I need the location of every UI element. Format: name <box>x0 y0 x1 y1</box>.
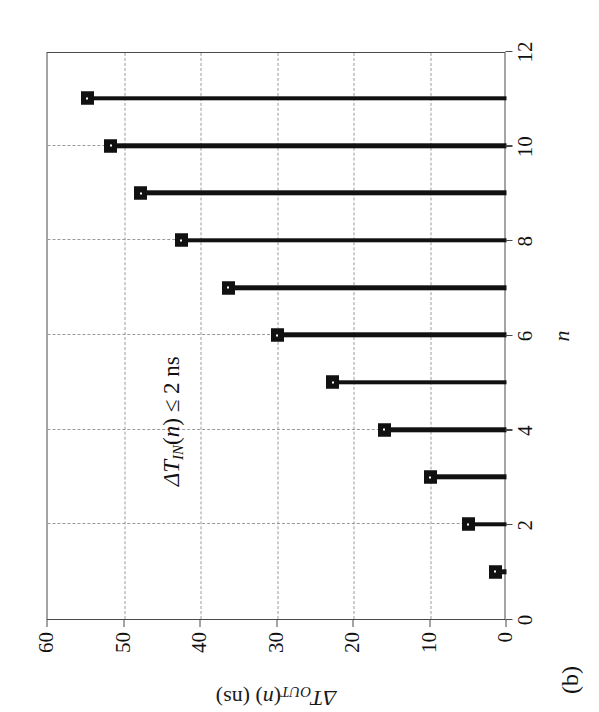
x-axis-tick <box>505 51 512 52</box>
data-point-marker <box>134 187 147 200</box>
data-point-marker <box>174 234 187 247</box>
rotated-figure-wrapper: 0246810120102030405060 ΔTIN(n) ≤ 2 ns n … <box>0 0 599 712</box>
x-axis-tick <box>505 145 512 146</box>
data-point-marker <box>80 92 93 105</box>
x-axis-tick <box>505 240 512 241</box>
x-axis-tick-label: 12 <box>512 42 537 63</box>
x-axis-tick <box>505 429 512 430</box>
y-axis-title-suffix: ) (ns) <box>215 686 262 711</box>
y-axis-title-prefix: ΔT <box>311 686 336 711</box>
x-axis-tick-label: 6 <box>512 331 537 342</box>
y-axis-title-open: ( <box>273 686 280 711</box>
x-axis-tick <box>505 524 512 525</box>
stem-bar <box>140 191 506 196</box>
figure-panel-b: 0246810120102030405060 ΔTIN(n) ≤ 2 ns n … <box>0 0 599 712</box>
y-axis-title: ΔTOUT(n) (ns) <box>46 257 505 712</box>
stem-bar <box>110 143 506 148</box>
x-axis-tick-label: 10 <box>512 136 537 157</box>
data-point-marker <box>104 139 117 152</box>
x-axis-tick <box>505 335 512 336</box>
y-axis-title-subscript: OUT <box>281 684 311 700</box>
subfigure-label: (b) <box>556 666 583 694</box>
x-axis-title: n <box>548 52 574 620</box>
stem-bar <box>181 238 506 243</box>
y-axis-title-variable: n <box>262 686 273 711</box>
stem-bar <box>87 96 506 101</box>
x-axis-tick-label: 2 <box>512 520 537 531</box>
x-axis-tick-label: 8 <box>512 236 537 247</box>
x-axis-tick-label: 4 <box>512 425 537 436</box>
x-axis-tick-label: 0 <box>512 615 537 626</box>
